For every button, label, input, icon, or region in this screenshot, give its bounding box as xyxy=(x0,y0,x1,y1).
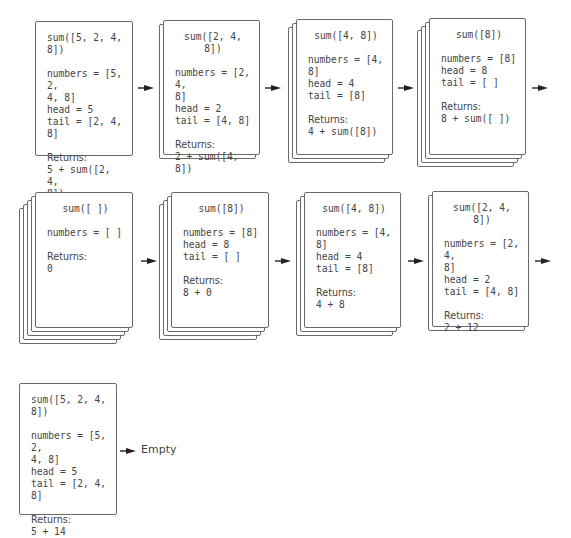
variable-line: tail = [8] xyxy=(308,90,384,102)
arrow-right-icon xyxy=(532,85,548,91)
arrow-right-icon xyxy=(265,85,281,91)
local-variables: numbers = [4, 8]head = 4tail = [8] xyxy=(316,227,392,275)
variable-line: 8] xyxy=(175,91,251,103)
arrow-right-icon xyxy=(138,85,154,91)
variable-line: 4, 8] xyxy=(47,92,124,104)
returns-label: Returns: xyxy=(444,310,520,322)
return-value: 0 xyxy=(47,263,124,275)
variable-line: numbers = [8] xyxy=(183,227,260,239)
call-frame-card: sum([ ])numbers = [ ]Returns:0 xyxy=(35,192,133,328)
return-value: 4 + 8 xyxy=(316,299,392,311)
arrow-right-icon xyxy=(408,258,424,264)
local-variables: numbers = [2, 4,8]head = 2tail = [4, 8] xyxy=(444,238,520,298)
function-call-title: sum([5, 2, 4, 8]) xyxy=(31,394,108,418)
arrow-right-icon xyxy=(120,448,136,454)
return-value: 8 + 0 xyxy=(183,287,260,299)
function-call-title: sum([4, 8]) xyxy=(316,203,392,215)
call-frame-card: sum([8])numbers = [8]head = 8tail = [ ]R… xyxy=(171,192,269,328)
arrow-right-icon xyxy=(275,258,291,264)
function-call-title: sum([2, 4, 8]) xyxy=(175,31,251,55)
function-call-title: sum([2, 4, 8]) xyxy=(444,202,520,226)
return-value: 2 + sum([4, 8]) xyxy=(175,151,251,175)
return-value: 4 + sum([8]) xyxy=(308,126,384,138)
local-variables: numbers = [8]head = 8tail = [ ] xyxy=(441,53,517,89)
returns-label: Returns: xyxy=(316,287,392,299)
variable-line: head = 8 xyxy=(183,239,260,251)
returns-label: Returns: xyxy=(47,152,124,164)
variable-line: numbers = [5, 2, xyxy=(47,68,124,92)
empty-stack-label: Empty xyxy=(141,443,176,456)
variable-line: tail = [ ] xyxy=(441,77,517,89)
returns-label: Returns: xyxy=(308,114,384,126)
returns-label: Returns: xyxy=(441,101,517,113)
variable-line: head = 2 xyxy=(175,103,251,115)
variable-line: tail = [4, 8] xyxy=(444,286,520,298)
returns-label: Returns: xyxy=(47,251,124,263)
local-variables: numbers = [5, 2,4, 8]head = 5tail = [2, … xyxy=(47,68,124,140)
variable-line: numbers = [4, 8] xyxy=(316,227,392,251)
variable-line: numbers = [8] xyxy=(441,53,517,65)
variable-line: 4, 8] xyxy=(31,454,108,466)
variable-line: head = 5 xyxy=(47,104,124,116)
call-frame-card: sum([4, 8])numbers = [4, 8]head = 4tail … xyxy=(304,192,401,328)
variable-line: tail = [ ] xyxy=(183,251,260,263)
return-value: 8 + sum([ ]) xyxy=(441,113,517,125)
call-frame-card: sum([2, 4, 8])numbers = [2, 4,8]head = 2… xyxy=(432,191,529,327)
call-frame-card: sum([5, 2, 4, 8])numbers = [5, 2,4, 8]he… xyxy=(19,383,117,515)
arrow-right-icon xyxy=(398,85,414,91)
variable-line: head = 8 xyxy=(441,65,517,77)
return-value: 2 + 12 xyxy=(444,322,520,334)
variable-line: tail = [8] xyxy=(316,263,392,275)
variable-line: head = 2 xyxy=(444,274,520,286)
variable-line: numbers = [ ] xyxy=(47,227,124,239)
arrow-right-icon xyxy=(535,258,551,264)
arrow-right-icon xyxy=(141,258,157,264)
local-variables: numbers = [5, 2,4, 8]head = 5tail = [2, … xyxy=(31,430,108,502)
return-value: 5 + 14 xyxy=(31,526,108,538)
variable-line: numbers = [4, 8] xyxy=(308,54,384,78)
variable-line: head = 5 xyxy=(31,466,108,478)
returns-label: Returns: xyxy=(175,139,251,151)
local-variables: numbers = [2, 4,8]head = 2tail = [4, 8] xyxy=(175,67,251,127)
local-variables: numbers = [8]head = 8tail = [ ] xyxy=(183,227,260,263)
local-variables: numbers = [ ] xyxy=(47,227,124,239)
call-frame-card: sum([2, 4, 8])numbers = [2, 4,8]head = 2… xyxy=(163,20,260,155)
call-frame-card: sum([4, 8])numbers = [4, 8]head = 4tail … xyxy=(296,19,393,155)
returns-label: Returns: xyxy=(183,275,260,287)
call-frame-card: sum([8])numbers = [8]head = 8tail = [ ]R… xyxy=(429,18,526,155)
return-value: 5 + sum([2, 4, xyxy=(47,164,124,188)
variable-line: numbers = [2, 4, xyxy=(175,67,251,91)
variable-line: tail = [2, 4, 8] xyxy=(31,478,108,502)
variable-line: numbers = [5, 2, xyxy=(31,430,108,454)
function-call-title: sum([8]) xyxy=(183,203,260,215)
function-call-title: sum([ ]) xyxy=(47,203,124,215)
variable-line: tail = [4, 8] xyxy=(175,115,251,127)
returns-label: Returns: xyxy=(31,514,108,526)
function-call-title: sum([4, 8]) xyxy=(308,30,384,42)
variable-line: head = 4 xyxy=(316,251,392,263)
variable-line: 8] xyxy=(444,262,520,274)
variable-line: numbers = [2, 4, xyxy=(444,238,520,262)
call-frame-card: sum([5, 2, 4, 8])numbers = [5, 2,4, 8]he… xyxy=(35,21,133,156)
variable-line: head = 4 xyxy=(308,78,384,90)
variable-line: tail = [2, 4, 8] xyxy=(47,116,124,140)
local-variables: numbers = [4, 8]head = 4tail = [8] xyxy=(308,54,384,102)
function-call-title: sum([5, 2, 4, 8]) xyxy=(47,32,124,56)
function-call-title: sum([8]) xyxy=(441,29,517,41)
